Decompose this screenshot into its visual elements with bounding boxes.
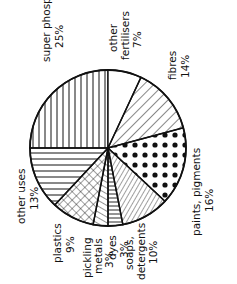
label-super-phosphate: super phosphate bbox=[40, 0, 52, 62]
label-plastics: plastics bbox=[51, 223, 63, 263]
slice-super-phosphate bbox=[30, 70, 108, 148]
label-other-fertilisers-1: other bbox=[107, 23, 119, 52]
label-super-phosphate-pct: 25% bbox=[53, 25, 65, 48]
label-paints-pigments-pct: 16% bbox=[203, 189, 215, 212]
label-other-uses-pct: 13% bbox=[28, 187, 40, 210]
label-fibres-pct: 14% bbox=[179, 55, 191, 78]
label-other-fertilisers-pct: 7% bbox=[131, 31, 143, 48]
label-other-uses: other uses bbox=[15, 169, 27, 224]
label-plastics-pct: 9% bbox=[64, 236, 76, 253]
label-pickling-pct: 3% bbox=[103, 251, 115, 268]
label-detergents: detergents bbox=[135, 223, 147, 280]
label-soaps-pct: 10% bbox=[147, 241, 159, 264]
pie-chart: super phosphate 25% other fertilisers 7%… bbox=[0, 0, 237, 284]
label-dyes-pct: 3% bbox=[118, 241, 130, 258]
label-paints-pigments: paints, pigments bbox=[190, 148, 202, 236]
label-other-fertilisers-2: fertilisers bbox=[119, 11, 131, 60]
pie-slices bbox=[30, 70, 186, 226]
label-fibres: fibres bbox=[166, 51, 178, 80]
